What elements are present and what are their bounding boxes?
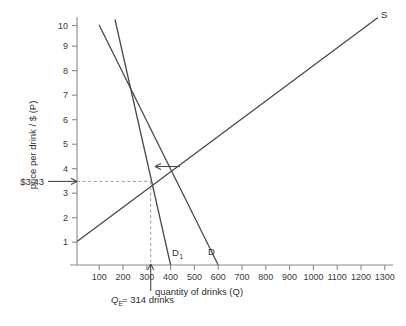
- x-axis-ticks: [99, 265, 385, 270]
- y-axis-ticks: [72, 26, 77, 243]
- y-tick-label-8: 8: [63, 66, 68, 76]
- x-tick-label-500: 500: [187, 272, 202, 282]
- y-tick-label-5: 5: [63, 139, 68, 149]
- demand-curve: [99, 25, 218, 265]
- supply-curve-label: S: [381, 9, 387, 20]
- x-tick-label-300: 300: [139, 272, 154, 282]
- y-tick-label-9: 9: [63, 41, 68, 51]
- x-axis-title: quantity of drinks (Q): [155, 286, 243, 297]
- x-tick-label-400: 400: [163, 272, 178, 282]
- x-tick-label-900: 900: [282, 272, 297, 282]
- x-tick-label-100: 100: [92, 272, 107, 282]
- y-axis-title: price per drink / $ (P): [27, 101, 38, 190]
- demand-shifted-curve-label-sub: 1: [180, 253, 184, 260]
- y-tick-label-3: 3: [63, 188, 68, 198]
- x-tick-label-1200: 1200: [351, 272, 371, 282]
- chart-svg: 1 2 3 4 5 6 7 8 9 10: [0, 0, 406, 326]
- supply-demand-chart: 1 2 3 4 5 6 7 8 9 10: [0, 0, 406, 326]
- x-tick-label-600: 600: [211, 272, 226, 282]
- demand-shift-arrow-icon: [155, 163, 180, 169]
- y-tick-label-10: 10: [58, 21, 68, 31]
- demand-shifted-curve-label-text: D: [172, 247, 179, 258]
- y-tick-label-6: 6: [63, 115, 68, 125]
- x-tick-label-700: 700: [234, 272, 249, 282]
- y-tick-label-7: 7: [63, 90, 68, 100]
- y-tick-label-1: 1: [63, 237, 68, 247]
- y-tick-label-4: 4: [63, 164, 68, 174]
- x-axis-tick-labels: 100 200 300 400 500 600 700 800 900 1000…: [92, 272, 395, 282]
- x-tick-label-800: 800: [258, 272, 273, 282]
- y-tick-label-2: 2: [63, 213, 68, 223]
- demand-curve-shifted: [115, 20, 171, 266]
- x-tick-label-1300: 1300: [375, 272, 395, 282]
- equilibrium-price-arrow-icon: [48, 178, 77, 184]
- x-tick-label-1000: 1000: [303, 272, 323, 282]
- y-axis-tick-labels: 1 2 3 4 5 6 7 8 9 10: [58, 21, 68, 248]
- demand-curve-label: D: [208, 246, 215, 257]
- demand-shifted-curve-label: D 1: [172, 247, 184, 260]
- x-tick-label-200: 200: [115, 272, 130, 282]
- x-tick-label-1100: 1100: [328, 272, 347, 282]
